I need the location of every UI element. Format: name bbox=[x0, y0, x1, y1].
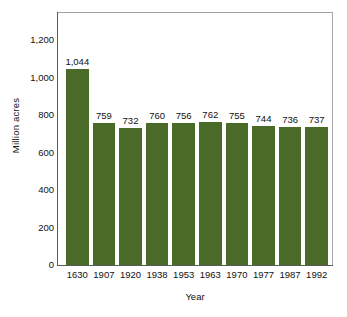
bar bbox=[119, 128, 142, 265]
bar bbox=[226, 123, 249, 265]
bar bbox=[172, 123, 195, 265]
bar bbox=[252, 126, 275, 266]
bar bbox=[199, 122, 222, 265]
bar-chart: Million acres 02004006008001,0001,200 1,… bbox=[0, 0, 347, 317]
x-axis-tick-label: 1992 bbox=[301, 269, 333, 280]
x-axis-tick-labels: 1630190719201938195319631970197719871992 bbox=[0, 269, 347, 283]
bar-value-label: 1,044 bbox=[61, 57, 93, 67]
bar bbox=[93, 123, 116, 265]
bar bbox=[146, 123, 169, 266]
bar bbox=[279, 127, 302, 265]
x-axis-title: Year bbox=[57, 291, 333, 302]
bar bbox=[66, 69, 89, 265]
bar bbox=[305, 127, 328, 265]
bar-value-label: 737 bbox=[301, 115, 333, 125]
